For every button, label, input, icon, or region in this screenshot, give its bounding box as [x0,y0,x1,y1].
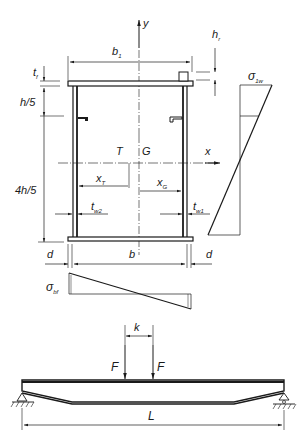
svg-text:σbf: σbf [46,280,60,295]
roller-support-icon [273,393,296,409]
centroid-label: G [142,145,151,157]
svg-text:b1: b1 [112,45,121,59]
svg-text:tw2: tw2 [91,200,102,214]
left-stiffener [78,117,88,121]
k-label: k [134,321,140,333]
girder-diagram: y b1 hr tf [0,0,299,446]
d-right-label: d [206,248,213,260]
h5-label: h/5 [20,96,36,108]
svg-text:hr: hr [212,28,221,42]
svg-text:σ1w: σ1w [248,69,264,84]
svg-text:xT: xT [95,172,107,186]
beam-elevation: k F F [11,321,296,430]
right-stiffener [170,117,182,122]
svg-text:tf: tf [33,66,39,80]
b-label: b [129,248,135,260]
cross-section: y b1 hr tf [15,17,221,268]
shear-center-label: T [116,145,124,157]
bottom-flange [68,237,193,241]
top-flange [68,81,193,86]
y-axis-label: y [142,17,150,29]
rail [179,72,188,81]
girder [22,380,284,402]
web-stress-diagram: σ1w [208,69,272,235]
svg-text:tw1: tw1 [193,200,204,214]
d-left-label: d [47,248,54,260]
svg-text:xG: xG [156,176,168,190]
flange-stress-diagram: σbf [46,273,191,309]
4h5-label: 4h/5 [15,184,37,196]
span-label: L [148,409,155,423]
load-left-label: F [111,360,119,374]
load-right-label: F [157,360,165,374]
x-axis-label: x [204,145,211,157]
